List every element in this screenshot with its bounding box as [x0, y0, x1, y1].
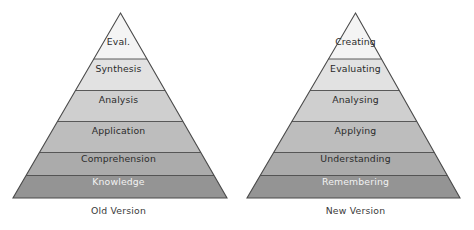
pyramid-band-remembering [247, 176, 460, 199]
blooms-taxonomy-diagram: Old Version Eval.SynthesisAnalysisApplic… [0, 0, 474, 230]
old-version-caption: Old Version [0, 205, 237, 216]
new-version-figure: New Version CreatingEvaluatingAnalysingA… [237, 0, 474, 230]
pyramid-band-synthesis [75, 59, 165, 91]
pyramid-band-applying [274, 122, 435, 153]
pyramid-band-analysis [57, 91, 183, 122]
pyramid-band-comprehension [26, 153, 214, 176]
pyramid-band-analysing [292, 91, 417, 122]
pyramid-band-evaluating [310, 59, 399, 91]
old-version-figure: Old Version Eval.SynthesisAnalysisApplic… [0, 0, 237, 230]
pyramid-band-application [39, 122, 200, 153]
pyramid-band-creating [329, 13, 382, 59]
pyramid-band-eval [94, 13, 147, 59]
pyramid-band-knowledge [13, 176, 227, 199]
pyramid-band-understanding [260, 153, 447, 176]
old-version-pyramid-graphic [0, 0, 237, 230]
new-version-caption: New Version [237, 205, 474, 216]
new-version-pyramid-graphic [237, 0, 474, 230]
